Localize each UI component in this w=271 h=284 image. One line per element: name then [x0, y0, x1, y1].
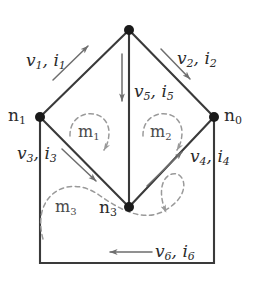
mesh-label-m3: m3: [55, 199, 77, 215]
branch-label-v5-i5: v5, i5: [134, 83, 174, 100]
graph-canvas: [0, 0, 271, 284]
node-dot-n3: [124, 202, 134, 212]
node-dot-n1: [35, 112, 45, 122]
arrow-b4-direction: [147, 152, 182, 186]
circuit-graph-figure: n1 n0 n3 v1, i1 v2, i2 v3, i3 v4, i4 v5,…: [0, 0, 271, 284]
node-label-n3: n3: [99, 199, 117, 216]
branch-direction-arrows: [53, 46, 190, 252]
branch-label-v1-i1: v1, i1: [26, 52, 66, 69]
branch-label-v2-i2: v2, i2: [177, 50, 217, 67]
mesh-label-m1: m1: [78, 124, 100, 140]
branch-label-v3-i3: v3, i3: [17, 145, 57, 162]
node-dot-n0: [209, 112, 219, 122]
branch-label-v6-i6: v6, i6: [155, 243, 195, 260]
branch-label-v4-i4: v4, i4: [190, 148, 230, 165]
node-label-n0: n0: [224, 107, 242, 124]
edge-b1-n1-to-ntop: [40, 30, 129, 117]
edge-b2-ntop-to-n0: [129, 30, 214, 117]
mesh-label-m2: m2: [150, 124, 172, 140]
arrow-b3-direction: [62, 149, 96, 181]
node-label-n1: n1: [8, 107, 26, 124]
node-dot-top: [124, 25, 134, 35]
